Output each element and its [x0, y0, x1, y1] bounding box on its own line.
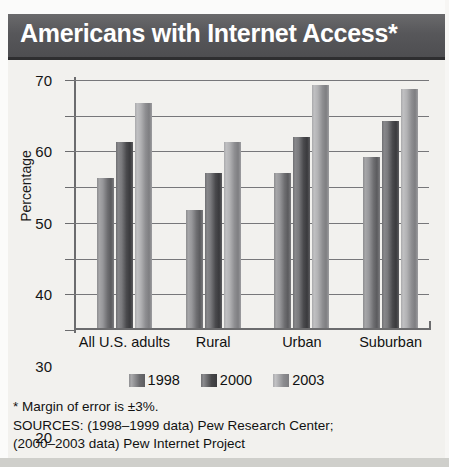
x-axis-tick-label: Urban: [282, 334, 322, 350]
bar-group: All U.S. adults: [97, 78, 152, 328]
legend-label-2000: 2000: [220, 372, 252, 388]
x-axis-right-cap: [429, 321, 431, 330]
bar-2000-urban: [293, 137, 310, 328]
bar-2003-suburban: [401, 89, 418, 328]
bar-2003-all-u-s-adults: [135, 103, 152, 328]
chart-figure: Americans with Internet Access* Percenta…: [0, 0, 449, 467]
y-axis-tick: 20: [65, 259, 74, 260]
series-2000-swatch: [201, 374, 217, 387]
chart-axes: 010203040506070All U.S. adultsRuralUrban…: [74, 80, 429, 330]
legend-label-2003: 2003: [292, 372, 324, 388]
chart-title: Americans with Internet Access*: [20, 19, 397, 48]
y-axis-tick-label: 70: [35, 72, 52, 89]
y-axis-tick: 60: [65, 116, 74, 117]
y-axis-tick: 50: [65, 151, 74, 152]
bar-group: Urban: [274, 78, 329, 328]
y-axis-tick: 30: [65, 223, 74, 224]
x-axis-line: [74, 328, 431, 330]
legend-item-2000: 2000: [201, 372, 252, 388]
x-axis-tick-label: All U.S. adults: [79, 334, 170, 350]
y-axis-tick-label: 40: [35, 286, 52, 303]
legend-item-1998: 1998: [129, 372, 180, 388]
chart-title-bar: Americans with Internet Access*: [8, 14, 445, 57]
bar-group: Rural: [186, 78, 241, 328]
x-axis-tick-label: Rural: [196, 334, 231, 350]
series-1998-swatch: [129, 374, 145, 387]
bar-group-bars: [186, 78, 241, 328]
y-axis-tick: 40: [65, 187, 74, 188]
chart-notes: * Margin of error is ±3%. SOURCES: (1998…: [13, 398, 443, 454]
bar-group-bars: [97, 78, 152, 328]
bar-group-bars: [274, 78, 329, 328]
y-axis-title: Percentage: [18, 106, 34, 266]
bar-2000-suburban: [382, 121, 399, 328]
bottom-margin: [0, 458, 449, 467]
legend-label-1998: 1998: [148, 372, 180, 388]
chart-legend: 199820002003: [8, 372, 445, 388]
bar-1998-suburban: [363, 157, 380, 328]
plot-area: Percentage 010203040506070All U.S. adult…: [8, 60, 445, 360]
note-sources-line-2: (2000–2003 data) Pew Internet Project: [13, 435, 443, 454]
bar-1998-rural: [186, 210, 203, 328]
note-sources-line-1: SOURCES: (1998–1999 data) Pew Research C…: [13, 417, 443, 436]
y-axis-tick-label: 60: [35, 143, 52, 160]
y-axis-tick-label: 50: [35, 214, 52, 231]
bar-group: Suburban: [363, 78, 418, 328]
bar-2003-rural: [224, 142, 241, 328]
legend-item-2003: 2003: [273, 372, 324, 388]
bar-group-bars: [363, 78, 418, 328]
bar-1998-all-u-s-adults: [97, 178, 114, 328]
y-axis-tick: 10: [65, 294, 74, 295]
note-margin-of-error: * Margin of error is ±3%.: [13, 398, 443, 417]
x-axis-tick-label: Suburban: [359, 334, 422, 350]
left-margin: [0, 0, 8, 467]
bar-2000-all-u-s-adults: [116, 142, 133, 328]
top-margin: [0, 0, 449, 14]
series-2003-swatch: [273, 374, 289, 387]
y-axis-tick: 0: [65, 330, 74, 331]
bar-2003-urban: [312, 85, 329, 328]
bar-2000-rural: [205, 173, 222, 328]
bar-1998-urban: [274, 173, 291, 328]
right-margin: [445, 0, 449, 467]
y-axis-tick: 70: [65, 80, 74, 81]
